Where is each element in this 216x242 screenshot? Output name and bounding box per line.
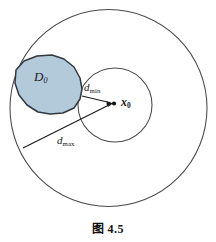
figure-diagram [0, 0, 216, 218]
caption-number: 4.5 [108, 222, 125, 236]
figure-container: D0 dmin dmax x0 图4.5 [0, 0, 216, 242]
region-d0-label: D0 [34, 70, 48, 83]
figure-caption: 图4.5 [0, 219, 216, 237]
caption-prefix: 图 [92, 222, 105, 236]
dmax-label: dmax [57, 135, 75, 146]
center-point-label: x0 [121, 96, 131, 108]
region-d0-shape [15, 55, 82, 114]
dmin-label: dmin [84, 82, 100, 93]
center-point-marker [112, 101, 116, 105]
